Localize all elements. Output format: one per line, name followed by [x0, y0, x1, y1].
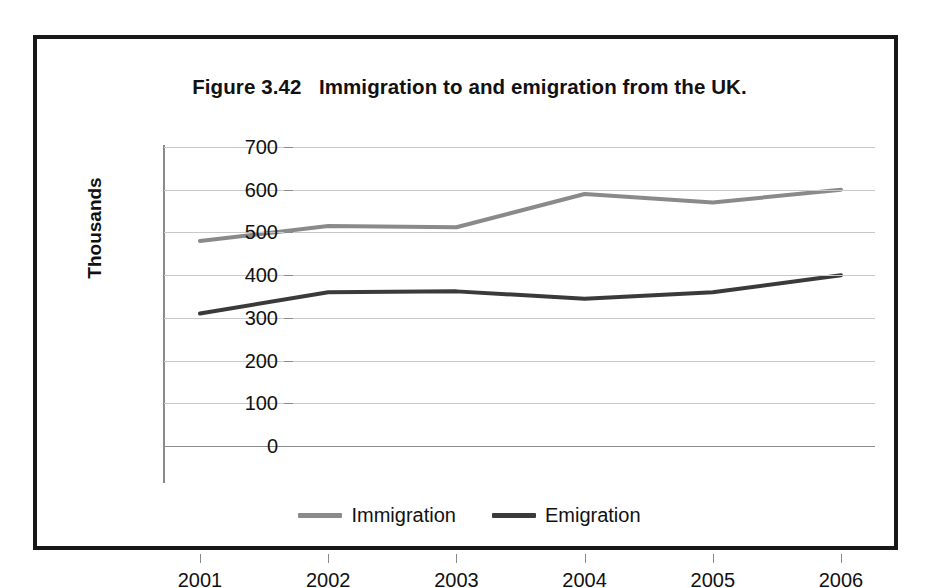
x-tick-2001: [200, 554, 201, 563]
y-axis-title: Thousands: [84, 138, 106, 318]
legend-swatch-immigration: [298, 513, 342, 518]
x-tick-2004: [585, 554, 586, 563]
y-tick-200: [284, 361, 293, 362]
x-tick-label-2003: 2003: [411, 569, 501, 588]
x-tick-2005: [713, 554, 714, 563]
x-tick-label-2005: 2005: [668, 569, 758, 588]
y-tick-300: [284, 318, 293, 319]
x-tick-2003: [456, 554, 457, 563]
y-tick-label-400: 400: [220, 265, 278, 285]
y-tick-label-500: 500: [220, 222, 278, 242]
y-tick-label-300: 300: [220, 308, 278, 328]
series-line-emigration: [200, 275, 841, 313]
x-tick-2002: [328, 554, 329, 563]
y-tick-label-100: 100: [220, 393, 278, 413]
y-tick-500: [284, 232, 293, 233]
y-tick-label-0: 0: [220, 436, 278, 456]
y-tick-label-200: 200: [220, 351, 278, 371]
plot-area: 7006005004003002001000200120022003200420…: [164, 147, 875, 446]
y-tick-400: [284, 275, 293, 276]
y-tick-600: [284, 190, 293, 191]
y-tick-0: [284, 446, 293, 447]
figure-root: Figure 3.42 Immigration to and emigratio…: [0, 0, 940, 588]
chart-legend: ImmigrationEmigration: [37, 505, 902, 525]
legend-swatch-emigration: [492, 513, 536, 518]
y-tick-100: [284, 403, 293, 404]
x-tick-label-2002: 2002: [283, 569, 373, 588]
x-tick-2006: [841, 554, 842, 563]
x-tick-label-2004: 2004: [540, 569, 630, 588]
legend-label-emigration: Emigration: [545, 505, 641, 525]
x-tick-label-2001: 2001: [155, 569, 245, 588]
x-tick-label-2006: 2006: [796, 569, 886, 588]
y-tick-label-700: 700: [220, 137, 278, 157]
y-tick-700: [284, 147, 293, 148]
figure-title: Figure 3.42 Immigration to and emigratio…: [37, 75, 902, 99]
legend-label-immigration: Immigration: [351, 505, 455, 525]
legend-item-emigration: Emigration: [492, 505, 641, 525]
y-tick-label-600: 600: [220, 180, 278, 200]
legend-item-immigration: Immigration: [298, 505, 455, 525]
figure-frame: Figure 3.42 Immigration to and emigratio…: [33, 35, 898, 550]
y-axis-labels: 7006005004003002001000: [212, 147, 278, 446]
